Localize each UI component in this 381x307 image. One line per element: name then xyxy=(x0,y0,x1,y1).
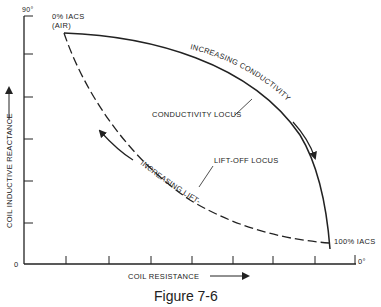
figure-caption: Figure 7-6 xyxy=(154,288,218,304)
air-point-label-1: 0% IACS xyxy=(52,12,85,21)
y-axis-label: COIL INDUCTIVE REACTANCE xyxy=(5,113,14,228)
origin-label: 0 xyxy=(14,260,18,269)
conductivity-leader-line xyxy=(235,99,252,115)
increasing-conductivity-text: INCREASING CONDUCTIVITY xyxy=(190,42,293,103)
conductivity-locus-label: CONDUCTIVITY LOCUS xyxy=(152,110,241,119)
copper-point-label: 100% IACS xyxy=(334,237,375,246)
increasing-conductivity-arrow-icon xyxy=(293,122,315,158)
y-axis-title: COIL INDUCTIVE REACTANCE xyxy=(5,88,14,228)
x-axis-label: COIL RESISTANCE xyxy=(128,272,199,281)
liftoff-locus-label: LIFT-OFF LOCUS xyxy=(214,156,279,165)
conductivity-locus-curve xyxy=(64,33,330,249)
liftoff-leader-line xyxy=(199,166,213,187)
increasing-liftoff-text: INCREASING LIFT-OFF xyxy=(0,0,202,206)
x-axis xyxy=(24,255,356,264)
air-point-label-2: (AIR) xyxy=(52,21,71,30)
x-axis-end-label: 0° xyxy=(358,257,366,266)
y-axis-top-label: 90° xyxy=(22,6,34,13)
x-axis-title: COIL RESISTANCE xyxy=(128,272,248,281)
liftoff-locus-curve xyxy=(64,33,329,243)
impedance-plane-diagram: 90° 0 0° COIL INDUCTIVE REACTANCE COIL R… xyxy=(0,0,381,307)
y-axis xyxy=(24,16,33,264)
increasing-liftoff-arrow-icon xyxy=(100,131,133,160)
